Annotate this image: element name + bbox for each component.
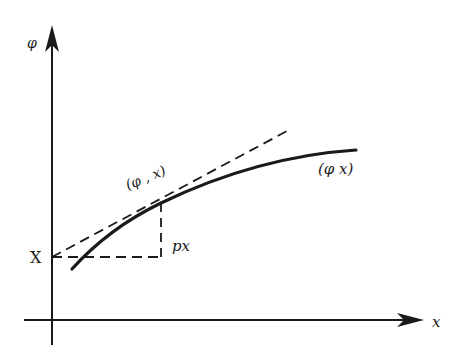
curve-label: (φ x) — [318, 160, 354, 178]
intercept-label: X — [30, 248, 42, 267]
rise-label: px — [172, 237, 191, 255]
tangent-line — [52, 131, 287, 257]
function-curve — [72, 150, 356, 269]
y-axis — [45, 25, 59, 345]
y-axis-label: φ — [27, 35, 37, 51]
diagram-canvas: φ x X px (φ , x) (φ x) — [0, 0, 457, 362]
tangent-point-label: (φ , x) — [123, 162, 168, 193]
x-axis — [24, 313, 424, 327]
x-axis-label: x — [432, 313, 441, 331]
